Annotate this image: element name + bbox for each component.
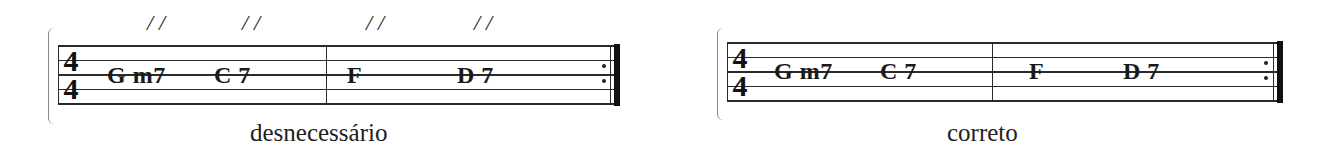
caption: desnecessário [250,119,387,147]
chord-symbol: G m7 [107,63,166,87]
time-signature-top: 4 [61,47,81,75]
staff-line [58,60,619,62]
repeat-dot [602,64,606,68]
measure-barline [326,45,327,105]
repeat-dot [1264,76,1268,80]
repeat-dot [602,79,606,83]
repeat-dot [1264,61,1268,65]
repeat-thick-barline [1277,41,1283,103]
chord-symbol: D 7 [457,63,494,87]
staff: 4 4 G m7 C 7 F D 7 [58,45,619,105]
slash-mark: // [366,12,390,34]
start-barline [58,45,59,105]
staff-line [727,42,1283,44]
staff: 4 4 G m7 C 7 F D 7 [727,42,1283,102]
chord-symbol: C 7 [880,59,917,83]
repeat-thin-barline [1273,42,1274,102]
system-bracket [48,28,57,124]
example-correct: 4 4 G m7 C 7 F D 7 correto [660,0,1337,156]
staff-line [58,89,619,91]
start-barline [727,42,728,102]
slash-mark: // [147,12,171,34]
slash-mark: // [474,12,498,34]
repeat-thin-barline [610,45,611,105]
staff-line [58,45,619,47]
caption: correto [947,119,1018,147]
time-signature-bottom: 4 [61,75,81,103]
chord-symbol: F [1029,59,1044,83]
staff-line [727,86,1283,88]
chord-symbol: C 7 [214,63,251,87]
chord-symbol: D 7 [1123,59,1160,83]
time-signature-bottom: 4 [730,72,750,100]
time-signature-top: 4 [730,44,750,72]
repeat-thick-barline [614,44,620,106]
staff-line [727,100,1283,102]
measure-barline [992,42,993,102]
example-unnecessary: // // // // 4 4 G m7 C 7 F D 7 desnecess… [0,0,660,156]
chord-symbol: F [347,63,362,87]
slash-mark: // [242,12,266,34]
chord-symbol: G m7 [774,59,833,83]
staff-line [58,103,619,105]
system-bracket [717,28,726,120]
